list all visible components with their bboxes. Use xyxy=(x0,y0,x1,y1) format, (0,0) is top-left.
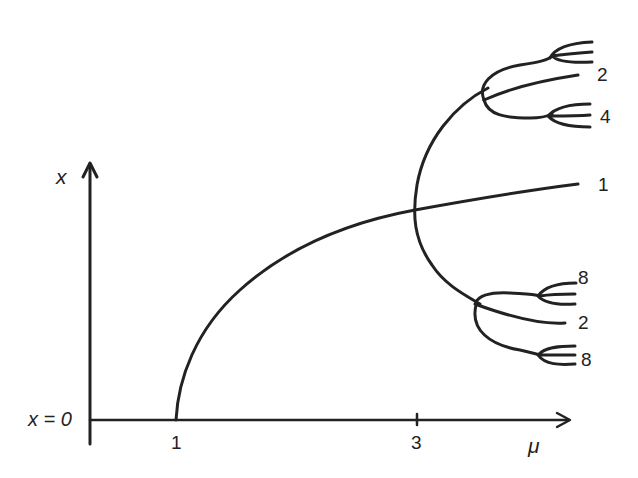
fork-4 xyxy=(548,104,590,127)
period-4-bottom-lower-loop xyxy=(475,305,540,355)
branch-label-bottom-8a: 8 xyxy=(578,268,589,287)
fork-top-upper xyxy=(550,42,592,62)
branch-label-top-2: 2 xyxy=(597,65,608,84)
period-4-bottom-loop xyxy=(484,100,552,118)
period-2-arc xyxy=(415,88,488,304)
fork-8-upper xyxy=(538,283,576,304)
origin-label: x = 0 xyxy=(28,409,72,429)
x-tick-label-3: 3 xyxy=(411,433,422,452)
branch-label-bottom-2: 2 xyxy=(578,313,589,332)
period-2-bottom-branch xyxy=(475,304,565,323)
period-4-bottom-upper-loop xyxy=(476,293,540,302)
fork-8-lower xyxy=(538,346,575,364)
y-axis-label: x xyxy=(56,166,67,187)
period-1-curve xyxy=(176,184,578,420)
x-tick-label-1: 1 xyxy=(171,433,182,452)
x-axis-label: μ xyxy=(528,435,540,456)
branch-label-bottom-8b: 8 xyxy=(581,350,592,369)
diagram-canvas xyxy=(0,0,638,478)
period-4-top-loop xyxy=(483,56,553,100)
branch-label-top-4: 4 xyxy=(600,107,611,126)
bifurcation-figure: x x = 0 1 3 μ 2 4 1 8 2 8 xyxy=(0,0,638,478)
period-2-top-branch xyxy=(484,75,578,100)
branch-label-1: 1 xyxy=(598,175,609,194)
